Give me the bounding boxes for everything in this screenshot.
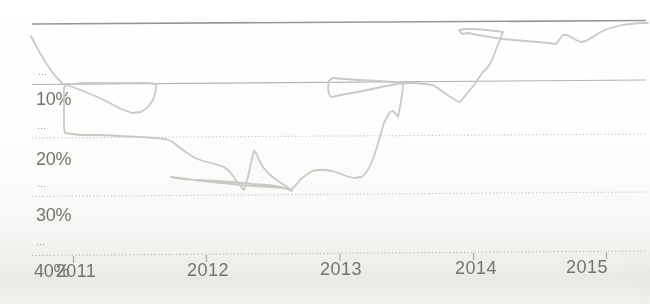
- y-axis-label: 10%: [36, 89, 71, 109]
- data-line: [31, 23, 648, 191]
- x-axis-label: 2013: [320, 259, 362, 279]
- tick-smudge: ⋯: [37, 124, 46, 134]
- tick-smudge: ⋯: [36, 240, 45, 250]
- gridline-0pct: [32, 21, 646, 25]
- photographed-line-chart: ⋯⋯⋯⋯2011201220132014201510%20%30%40%: [0, 0, 650, 304]
- line-chart: ⋯⋯⋯⋯2011201220132014201510%20%30%40%: [0, 0, 650, 304]
- x-axis-label: 2015: [566, 257, 608, 277]
- tick-smudge: ⋯: [38, 70, 47, 80]
- tick-smudge: ⋯: [37, 182, 46, 192]
- y-axis-label: 30%: [36, 205, 71, 225]
- gridline-30pct: [32, 192, 646, 197]
- x-axis-label: 2014: [455, 258, 497, 278]
- gridline-40pct-axis: [32, 251, 646, 256]
- x-axis-label: 2012: [187, 260, 229, 280]
- y-axis-label: 20%: [36, 149, 71, 169]
- y-axis-label: 40%: [34, 261, 69, 281]
